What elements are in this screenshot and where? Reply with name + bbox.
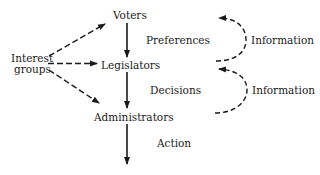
information-loop-top — [216, 18, 246, 61]
feedback-label-information-bottom: Information — [252, 84, 315, 96]
node-administrators: Administrators — [94, 111, 174, 123]
edge-label-preferences: Preferences — [146, 34, 210, 46]
dashed-arrow-interest-to-administrators — [49, 70, 99, 103]
node-legislators: Legislators — [101, 59, 160, 71]
edge-label-decisions: Decisions — [150, 84, 201, 96]
information-loop-bottom — [215, 69, 247, 113]
node-voters: Voters — [113, 9, 147, 21]
edge-label-action: Action — [157, 137, 191, 149]
dashed-arrow-interest-to-voters — [49, 24, 105, 56]
feedback-label-information-top: Information — [251, 34, 314, 46]
node-interest-groups-line2: groups — [14, 63, 51, 75]
